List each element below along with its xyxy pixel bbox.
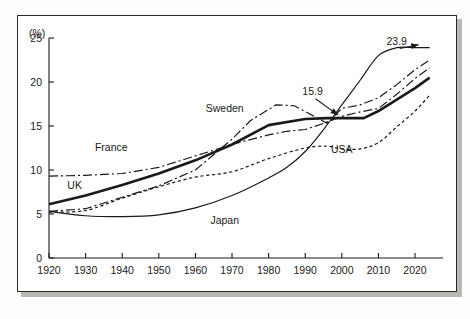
series-line-france xyxy=(49,68,430,176)
figure-root: 0510152025 19201930194019501960197019801… xyxy=(0,0,470,319)
x-tick-label: 1920 xyxy=(37,264,61,276)
annotation-label-23-9: 23.9 xyxy=(387,35,408,47)
y-tick-label: 15 xyxy=(30,120,42,132)
series-label-usa: USA xyxy=(331,143,353,155)
y-axis-tick-labels: 0510152025 xyxy=(30,32,42,264)
chart-series-lines xyxy=(49,47,430,217)
x-tick-label: 2010 xyxy=(367,264,391,276)
series-label-sweden: Sweden xyxy=(206,102,244,114)
series-label-france: France xyxy=(95,141,128,153)
x-tick-label: 2020 xyxy=(403,264,427,276)
series-label-japan: Japan xyxy=(210,214,239,226)
x-tick-label: 1960 xyxy=(184,264,208,276)
y-tick-label: 5 xyxy=(36,208,42,220)
x-tick-label: 1930 xyxy=(74,264,98,276)
series-label-uk: UK xyxy=(67,179,82,191)
x-tick-label: 1970 xyxy=(220,264,244,276)
y-axis-tick-marks xyxy=(49,38,54,258)
annotation-label-15-9: 15.9 xyxy=(302,85,323,97)
y-tick-label: 0 xyxy=(36,252,42,264)
x-axis-tick-marks xyxy=(49,253,415,258)
y-axis-unit-label: (%) xyxy=(29,27,45,39)
x-tick-label: 1940 xyxy=(111,264,135,276)
line-chart: 0510152025 19201930194019501960197019801… xyxy=(17,15,457,292)
chart-series-labels: FranceSwedenUKUSAJapan xyxy=(67,102,352,226)
y-tick-label: 10 xyxy=(30,164,42,176)
chart-annotations: 23.915.9 xyxy=(302,35,418,115)
x-axis-tick-labels: 1920193019401950196019701980199020002010… xyxy=(37,264,427,276)
x-tick-label: 2000 xyxy=(330,264,354,276)
x-tick-label: 1950 xyxy=(147,264,171,276)
x-tick-label: 1980 xyxy=(257,264,281,276)
x-tick-label: 1990 xyxy=(294,264,318,276)
y-tick-label: 20 xyxy=(30,76,42,88)
